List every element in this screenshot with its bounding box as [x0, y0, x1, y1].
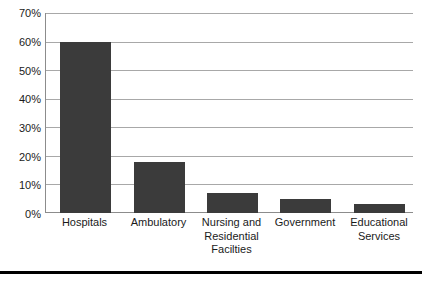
chart-page: 70% 60% 50% 40% 30% 20% 10% 0% [0, 0, 422, 283]
footer-divider-gap [0, 276, 422, 277]
y-tick-label-70: 70% [1, 8, 41, 19]
y-tick-label-40: 40% [1, 94, 41, 105]
bar-educational-services[interactable] [354, 204, 405, 213]
x-label-educational-services: Educational Services [336, 216, 422, 243]
bar-nursing-and-residential-facilties[interactable] [207, 193, 258, 213]
footer-divider [0, 271, 422, 274]
bar-chart: 70% 60% 50% 40% 30% 20% 10% 0% [0, 0, 422, 268]
x-axis-category-labels: Hospitals Ambulatory Nursing and Residen… [45, 216, 412, 268]
y-axis: 70% 60% 50% 40% 30% 20% 10% 0% [0, 13, 41, 213]
y-tick-label-60: 60% [1, 37, 41, 48]
y-tick-label-10: 10% [1, 180, 41, 191]
y-tick-label-30: 30% [1, 123, 41, 134]
x-label-hospitals: Hospitals [42, 216, 127, 230]
bar-government[interactable] [280, 199, 331, 213]
y-tick-label-50: 50% [1, 66, 41, 77]
bar-hospitals[interactable] [60, 42, 111, 213]
plot-area [45, 13, 412, 213]
bar-ambulatory[interactable] [134, 162, 185, 213]
y-tick-label-20: 20% [1, 152, 41, 163]
y-tick-label-0: 0% [1, 209, 41, 220]
gridline-70 [46, 13, 413, 14]
